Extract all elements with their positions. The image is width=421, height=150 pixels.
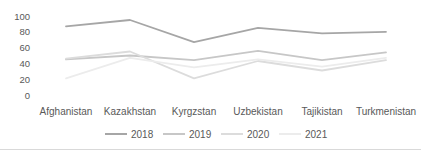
x-axis-category-label: Tajikistan — [301, 106, 342, 117]
legend-label-2020: 2020 — [247, 129, 270, 140]
y-axis-tick-label: 100 — [14, 11, 30, 22]
legend-label-2021: 2021 — [305, 129, 328, 140]
x-axis-category-label: Kazakhstan — [104, 106, 156, 117]
series-line-2019 — [66, 51, 386, 60]
line-chart: 020406080100AfghanistanKazakhstanKyrgzst… — [0, 0, 421, 150]
legend-label-2019: 2019 — [189, 129, 212, 140]
y-axis-tick-label: 20 — [19, 74, 30, 85]
y-axis-tick-label: 80 — [19, 26, 30, 37]
x-axis-category-label: Uzbekistan — [233, 106, 282, 117]
x-axis-category-label: Kyrgzstan — [172, 106, 216, 117]
y-axis-tick-label: 0 — [25, 90, 30, 101]
chart-canvas: 020406080100AfghanistanKazakhstanKyrgzst… — [0, 0, 421, 150]
y-axis-tick-label: 60 — [19, 42, 30, 53]
x-axis-category-label: Turkmenistan — [356, 106, 416, 117]
series-line-2018 — [66, 20, 386, 42]
x-axis-category-label: Afghanistan — [40, 106, 93, 117]
y-axis-tick-label: 40 — [19, 58, 30, 69]
legend-label-2018: 2018 — [131, 129, 154, 140]
